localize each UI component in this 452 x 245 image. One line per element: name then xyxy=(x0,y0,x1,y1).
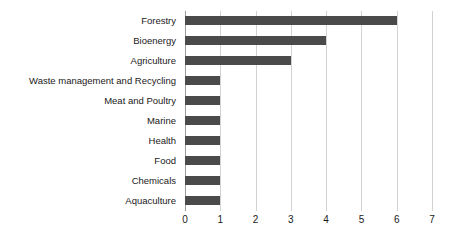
bar xyxy=(185,96,220,105)
bar xyxy=(185,176,220,185)
bar-row xyxy=(185,31,432,51)
category-label: Agriculture xyxy=(0,51,180,71)
category-label: Meat and Poultry xyxy=(0,91,180,111)
x-tick-label: 0 xyxy=(173,213,197,227)
x-tick-label: 7 xyxy=(420,213,444,227)
x-tick-label: 2 xyxy=(244,213,268,227)
category-label: Food xyxy=(0,151,180,171)
category-labels: ForestryBioenergyAgricultureWaste manage… xyxy=(0,11,180,211)
bar xyxy=(185,16,397,25)
bar-row xyxy=(185,191,432,211)
bar-row xyxy=(185,151,432,171)
x-tick-label: 6 xyxy=(385,213,409,227)
bar-row xyxy=(185,131,432,151)
category-label: Health xyxy=(0,131,180,151)
category-label: Marine xyxy=(0,111,180,131)
x-axis-tick-labels: 01234567 xyxy=(185,213,432,233)
bar-row xyxy=(185,51,432,71)
bar xyxy=(185,36,326,45)
category-label: Aquaculture xyxy=(0,191,180,211)
bar xyxy=(185,56,291,65)
bar xyxy=(185,76,220,85)
bar-row xyxy=(185,71,432,91)
x-tick-label: 5 xyxy=(349,213,373,227)
x-tick-label: 3 xyxy=(279,213,303,227)
category-label: Chemicals xyxy=(0,171,180,191)
bar xyxy=(185,196,220,205)
bar xyxy=(185,156,220,165)
category-label: Waste management and Recycling xyxy=(0,71,180,91)
category-label: Forestry xyxy=(0,11,180,31)
bar-chart: ForestryBioenergyAgricultureWaste manage… xyxy=(0,0,452,245)
gridline-7 xyxy=(432,11,433,211)
bar-row xyxy=(185,171,432,191)
bar-row xyxy=(185,111,432,131)
bar xyxy=(185,136,220,145)
bars-layer xyxy=(185,11,432,211)
bar-row xyxy=(185,91,432,111)
bar-row xyxy=(185,11,432,31)
category-label: Bioenergy xyxy=(0,31,180,51)
bar xyxy=(185,116,220,125)
x-tick-label: 4 xyxy=(314,213,338,227)
x-tick-label: 1 xyxy=(208,213,232,227)
